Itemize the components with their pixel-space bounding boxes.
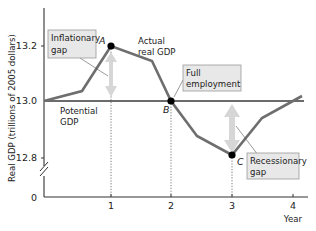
inflationary-gap-line2: gap bbox=[51, 45, 67, 55]
point-c-label: C bbox=[237, 156, 244, 167]
y-tick-0: 0 bbox=[31, 192, 37, 203]
full-employment-line1: Full bbox=[186, 68, 201, 78]
y-tick-12-8: 12.8 bbox=[16, 152, 37, 163]
inflationary-gap-line1: Inflationary bbox=[51, 33, 100, 43]
x-tick-2: 2 bbox=[168, 200, 174, 211]
point-c-marker bbox=[228, 151, 235, 158]
y-tick-13-0: 13.0 bbox=[16, 95, 37, 106]
y-axis bbox=[40, 8, 48, 197]
business-cycle-chart: 13.2 13.0 12.8 0 Real GDP (trillions of … bbox=[0, 0, 316, 231]
y-tick-13-2: 13.2 bbox=[16, 40, 37, 51]
y-axis-title: Real GDP (trillions of 2005 dollars) bbox=[7, 34, 17, 182]
actual-gdp-label-line2: real GDP bbox=[138, 47, 175, 57]
x-tick-3: 3 bbox=[229, 200, 235, 211]
x-tick-1: 1 bbox=[108, 200, 114, 211]
inflationary-gap-callout: Inflationary gap bbox=[48, 30, 100, 58]
x-tick-4: 4 bbox=[290, 200, 296, 211]
potential-gdp-label-line2: GDP bbox=[60, 117, 78, 127]
full-employment-line2: employment bbox=[186, 79, 241, 89]
full-employment-callout: Full employment bbox=[183, 65, 241, 91]
potential-gdp-label-line1: Potential bbox=[60, 106, 98, 116]
point-a-marker bbox=[107, 42, 114, 49]
recessionary-gap-line1: Recessionary bbox=[250, 156, 307, 166]
actual-gdp-label-line1: Actual bbox=[138, 36, 165, 46]
recessionary-gap-callout: Recessionary gap bbox=[247, 153, 307, 179]
x-axis bbox=[44, 194, 308, 197]
inflationary-gap-arrow-icon bbox=[105, 52, 117, 97]
x-axis-title: Year bbox=[283, 214, 303, 224]
recessionary-gap-line2: gap bbox=[250, 167, 266, 177]
point-b-label: B bbox=[163, 104, 170, 115]
